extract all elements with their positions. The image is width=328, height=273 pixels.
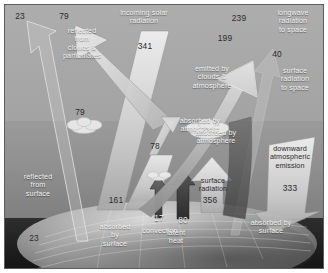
diagram-frame: incoming solar radiation reflected from …	[4, 4, 324, 269]
cloud-right	[186, 119, 229, 139]
cloud-shapes	[5, 5, 324, 269]
energy-budget-diagram: incoming solar radiation reflected from …	[0, 0, 328, 273]
cloud-left	[67, 118, 102, 134]
cloud-convection	[148, 172, 172, 181]
